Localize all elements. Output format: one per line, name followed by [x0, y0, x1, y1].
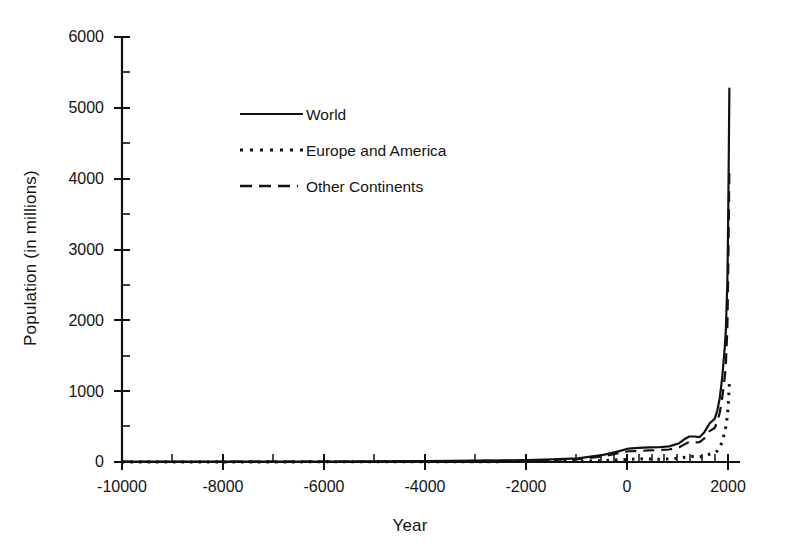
population-history-chart: Population (in millions) Year 6000 5000 …: [0, 0, 809, 555]
series-line-europe-and-america: [122, 384, 729, 462]
plot-canvas: [0, 0, 809, 555]
series-line-world: [122, 89, 729, 462]
series-line-other-continents: [122, 167, 729, 462]
